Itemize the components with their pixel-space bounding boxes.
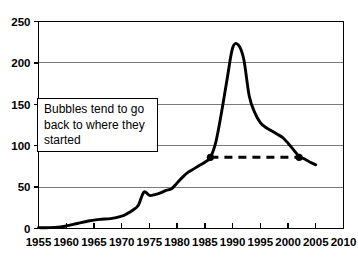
x-tick-label-2005: 2005 (303, 236, 329, 248)
x-tick-label-1965: 1965 (81, 236, 107, 248)
annotation-callout-text: Bubbles tend to go back to where they st… (44, 102, 152, 149)
x-tick-label-1980: 1980 (164, 236, 190, 248)
y-tick-label-250: 250 (11, 16, 30, 28)
x-tick-label-1955: 1955 (26, 236, 52, 248)
y-tick-label-150: 150 (11, 99, 30, 111)
x-tick-label-1990: 1990 (220, 236, 246, 248)
y-tick-label-200: 200 (11, 57, 30, 69)
annotation-callout-box: Bubbles tend to go back to where they st… (37, 98, 158, 152)
y-tick-label-100: 100 (11, 140, 30, 152)
reference-marker-2 (296, 154, 303, 161)
y-tick-label-0: 0 (24, 223, 30, 235)
x-tick-label-1995: 1995 (248, 236, 274, 248)
reference-marker-1 (207, 154, 214, 161)
x-tick-label-2010: 2010 (331, 236, 357, 248)
chart-container: 050100150200250 195519601965197019751980… (0, 0, 358, 258)
y-tick-label-50: 50 (18, 181, 31, 193)
x-tick-label-1985: 1985 (192, 236, 218, 248)
x-tick-label-1975: 1975 (137, 236, 163, 248)
x-tick-label-1970: 1970 (109, 236, 135, 248)
x-tick-label-2000: 2000 (275, 236, 301, 248)
x-tick-label-1960: 1960 (53, 236, 79, 248)
